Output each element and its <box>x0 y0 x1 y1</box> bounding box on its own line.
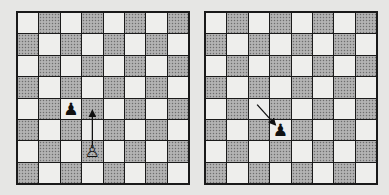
square-h1 <box>168 163 188 183</box>
square-c5 <box>61 77 81 97</box>
square-a4 <box>206 99 226 119</box>
square-g8 <box>146 13 166 33</box>
square-c1 <box>249 163 269 183</box>
square-c6 <box>61 56 81 76</box>
square-f5 <box>313 77 333 97</box>
square-e4 <box>292 99 312 119</box>
square-a8 <box>18 13 38 33</box>
square-a1 <box>206 163 226 183</box>
square-f7 <box>313 34 333 54</box>
square-g2 <box>334 141 354 161</box>
square-h8 <box>168 13 188 33</box>
square-d5 <box>270 77 290 97</box>
square-e8 <box>292 13 312 33</box>
square-d4 <box>270 99 290 119</box>
square-g1 <box>146 163 166 183</box>
square-c8 <box>249 13 269 33</box>
black-pawn-icon: ♟ <box>273 122 288 139</box>
square-g1 <box>334 163 354 183</box>
square-c4: ♟ <box>61 99 81 119</box>
square-c1 <box>61 163 81 183</box>
black-pawn-icon: ♟ <box>63 100 78 117</box>
square-b7 <box>39 34 59 54</box>
square-f2 <box>313 141 333 161</box>
square-c2 <box>249 141 269 161</box>
square-b5 <box>39 77 59 97</box>
square-f5 <box>125 77 145 97</box>
square-e2 <box>292 141 312 161</box>
square-e7 <box>292 34 312 54</box>
square-c3 <box>249 120 269 140</box>
square-e8 <box>104 13 124 33</box>
square-a2 <box>18 141 38 161</box>
square-b5 <box>227 77 247 97</box>
square-d1 <box>270 163 290 183</box>
chessboard-left: ♟♙ <box>16 11 190 185</box>
square-g4 <box>334 99 354 119</box>
square-d5 <box>82 77 102 97</box>
square-b3 <box>39 120 59 140</box>
square-f3 <box>125 120 145 140</box>
square-c6 <box>249 56 269 76</box>
square-c5 <box>249 77 269 97</box>
square-b3 <box>227 120 247 140</box>
square-h5 <box>168 77 188 97</box>
square-e5 <box>104 77 124 97</box>
square-e4 <box>104 99 124 119</box>
square-a6 <box>206 56 226 76</box>
square-e7 <box>104 34 124 54</box>
square-a3 <box>18 120 38 140</box>
square-f8 <box>125 13 145 33</box>
square-a2 <box>206 141 226 161</box>
square-f1 <box>313 163 333 183</box>
square-b1 <box>39 163 59 183</box>
square-a5 <box>18 77 38 97</box>
square-g7 <box>334 34 354 54</box>
square-c7 <box>61 34 81 54</box>
square-b2 <box>227 141 247 161</box>
square-e1 <box>292 163 312 183</box>
square-d4 <box>82 99 102 119</box>
square-g5 <box>146 77 166 97</box>
square-a7 <box>18 34 38 54</box>
square-b8 <box>39 13 59 33</box>
square-g6 <box>146 56 166 76</box>
square-h6 <box>168 56 188 76</box>
square-d3: ♟ <box>270 120 290 140</box>
square-a3 <box>206 120 226 140</box>
square-f4 <box>125 99 145 119</box>
square-e3 <box>104 120 124 140</box>
square-e6 <box>104 56 124 76</box>
white-pawn-icon: ♙ <box>85 143 100 160</box>
square-g8 <box>334 13 354 33</box>
square-f1 <box>125 163 145 183</box>
square-h1 <box>356 163 376 183</box>
square-h3 <box>168 120 188 140</box>
square-b6 <box>39 56 59 76</box>
square-d3 <box>82 120 102 140</box>
square-g2 <box>146 141 166 161</box>
square-e1 <box>104 163 124 183</box>
square-d2 <box>270 141 290 161</box>
square-h4 <box>356 99 376 119</box>
square-d7 <box>82 34 102 54</box>
square-g7 <box>146 34 166 54</box>
square-h2 <box>168 141 188 161</box>
square-f4 <box>313 99 333 119</box>
square-c3 <box>61 120 81 140</box>
square-b2 <box>39 141 59 161</box>
square-b4 <box>227 99 247 119</box>
square-d8 <box>270 13 290 33</box>
square-e2 <box>104 141 124 161</box>
square-a8 <box>206 13 226 33</box>
square-b7 <box>227 34 247 54</box>
square-a4 <box>18 99 38 119</box>
square-g3 <box>146 120 166 140</box>
square-f2 <box>125 141 145 161</box>
square-a7 <box>206 34 226 54</box>
square-g5 <box>334 77 354 97</box>
square-h7 <box>168 34 188 54</box>
square-f6 <box>125 56 145 76</box>
square-e6 <box>292 56 312 76</box>
square-d8 <box>82 13 102 33</box>
